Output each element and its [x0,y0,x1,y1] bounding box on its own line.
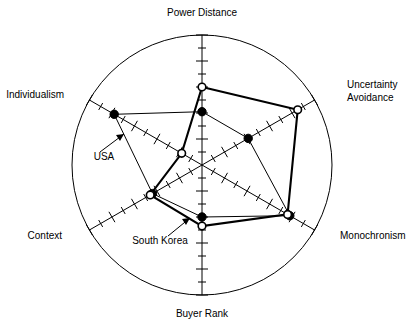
axis-tick [267,199,273,209]
series-label-usa: USA [94,151,115,162]
data-point-south-korea-context [146,191,154,199]
axis-tick [211,168,215,175]
data-point-south-korea-uncertainty-avoidance [294,106,302,114]
axis-label-buyer-rank: Buyer Rank [176,308,229,319]
axis-tick [131,121,137,131]
radar-chart: Power DistanceUncertaintyAvoidanceMonoch… [0,0,407,328]
axis-tick [234,142,238,149]
axis-label-power-distance: Power Distance [167,7,237,18]
axis-label-uncertainty: Uncertainty [347,79,398,90]
axis-tick [99,220,103,227]
axis-label-monochronism: Monochronism [340,230,406,241]
axis-label-avoidance: Avoidance [347,92,394,103]
axis-tick [99,103,103,110]
axis-tick [256,194,260,201]
axis-tick [86,95,92,105]
axis-tick [279,207,283,214]
axis-tick [244,186,250,196]
axis-tick [166,181,170,188]
data-point-usa-buyer-rank [198,213,206,221]
axis-tick [189,168,193,175]
axis-tick [301,220,305,227]
axis-tick [131,199,137,209]
data-point-usa-uncertainty-avoidance [244,134,252,142]
usa-arrowhead-icon [116,134,124,141]
axes-group [86,35,317,295]
series-polygon-south-korea [150,87,298,226]
series-labels-group: USASouth Korea [94,151,189,246]
axis-tick [154,134,160,144]
axis-tick [86,225,92,235]
axis-tick [189,155,193,162]
axis-tick [222,173,228,183]
chart-canvas: Power DistanceUncertaintyAvoidanceMonoch… [0,0,407,328]
axis-tick [121,207,125,214]
data-point-usa-power-distance [198,108,206,116]
axis-label-context: Context [28,230,63,241]
axis-tick [234,181,238,188]
axis-tick [176,173,182,183]
axis-tick [166,142,170,149]
axis-tick [312,95,318,105]
axis-tick [211,155,215,162]
data-point-south-korea-power-distance [198,83,206,91]
axis-tick [267,121,273,131]
axis-tick [312,225,318,235]
series-label-south-korea: South Korea [132,235,188,246]
data-point-south-korea-monochronism [284,211,292,219]
axis-tick [144,129,148,136]
data-point-south-korea-individualism [178,150,186,158]
axis-label-individualism: Individualism [6,89,64,100]
axis-tick [222,147,228,157]
axis-tick [279,116,283,123]
data-point-usa-individualism [110,110,118,118]
axis-tick [109,212,115,222]
data-point-south-korea-buyer-rank [198,222,206,230]
axis-tick [121,116,125,123]
axis-tick [256,129,260,136]
